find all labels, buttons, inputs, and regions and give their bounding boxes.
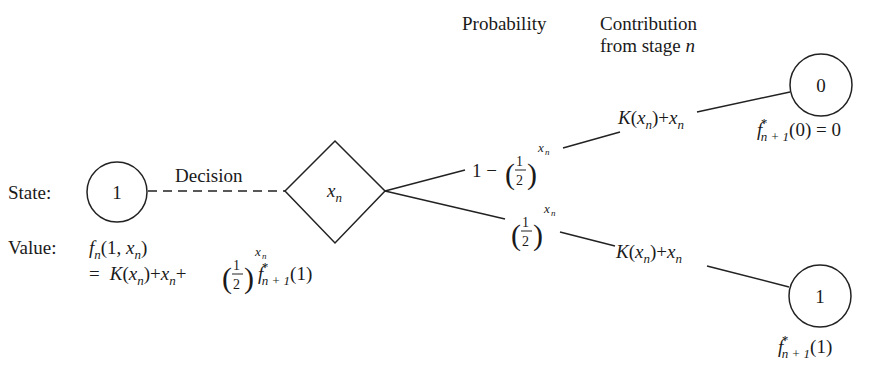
value-label: Value: [8,237,57,258]
decision-node-value: xn [326,180,342,205]
svg-text:): ) [533,218,543,252]
svg-text:(: ( [222,261,232,295]
branch-lower-probability: ( 1 2 ) x n [511,201,556,252]
decision-tree-diagram: Probability Contribution from stage n St… [0,0,891,371]
svg-text:): ) [244,261,254,295]
svg-text:x: x [543,201,550,216]
svg-text:(: ( [511,218,521,252]
svg-text:f*n + 1(1): f*n + 1(1) [258,259,312,288]
state-node-1-optimal-value: f*n + 1(1) [778,332,832,361]
branch-upper-end-line [697,92,790,112]
branch-lower-contribution: K(xn)+xn [615,241,682,266]
svg-text:x: x [537,140,544,155]
branch-upper-line [385,170,465,191]
svg-text:(: ( [505,157,515,191]
state-label: State: [8,182,51,203]
branch-upper-mid-line [563,132,620,148]
contribution-header-line1: Contribution [600,13,698,34]
state-node-1-value: 1 [815,286,825,307]
svg-text:1: 1 [522,215,529,230]
state-node-0-value: 0 [816,75,826,96]
svg-text:=K(xn)+xn+: =K(xn)+xn+ [89,263,186,288]
svg-text:x: x [254,244,261,259]
branch-lower-mid-line [560,232,615,246]
svg-text:1: 1 [516,154,523,169]
svg-text:): ) [527,157,537,191]
svg-text:2: 2 [233,277,240,292]
state-node-0-optimal-value: f*n + 1(0) = 0 [757,115,841,144]
svg-text:1 −: 1 − [472,160,497,181]
svg-text:2: 2 [516,173,523,188]
branch-upper-probability: 1 − ( 1 2 ) x n [472,140,550,191]
state-node-start-value: 1 [112,182,122,203]
contribution-header-line2: from stage n [600,35,695,56]
svg-text:n: n [551,208,556,218]
decision-label: Decision [175,165,243,186]
branch-lower-end-line [707,266,789,287]
branch-lower-line [385,191,505,219]
svg-text:1: 1 [233,258,240,273]
svg-text:2: 2 [522,234,529,249]
branch-upper-contribution: K(xn)+xn [617,107,684,132]
probability-header: Probability [462,13,547,34]
svg-text:n: n [545,147,550,157]
value-expression-line1: fn(1, xn) [89,237,147,262]
